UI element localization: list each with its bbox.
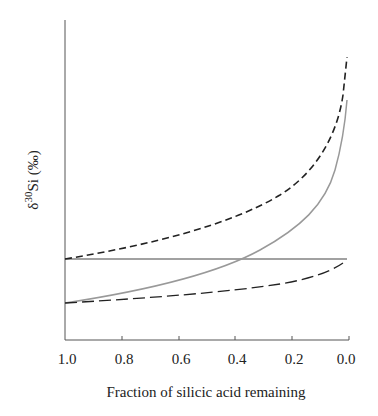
y-axis-title: δ30Si (‰) — [22, 150, 42, 209]
chart: 1.0 0.8 0.6 0.4 0.2 0.0 Fraction of sili… — [0, 0, 378, 416]
upper-dashed-curve — [65, 57, 347, 259]
svg-text:1.0: 1.0 — [58, 351, 77, 367]
svg-text:0.0: 0.0 — [337, 351, 356, 367]
gray-solid-curve — [65, 100, 347, 303]
lower-dashed-curve — [65, 263, 343, 303]
x-ticks — [122, 336, 349, 340]
x-tick-labels: 1.0 0.8 0.6 0.4 0.2 0.0 — [58, 351, 356, 367]
svg-text:0.6: 0.6 — [172, 351, 191, 367]
x-axis-title: Fraction of silicic acid remaining — [106, 384, 306, 400]
svg-text:0.2: 0.2 — [285, 351, 304, 367]
svg-text:δ30Si (‰): δ30Si (‰) — [22, 150, 42, 209]
svg-text:0.4: 0.4 — [228, 351, 247, 367]
svg-text:0.8: 0.8 — [115, 351, 134, 367]
